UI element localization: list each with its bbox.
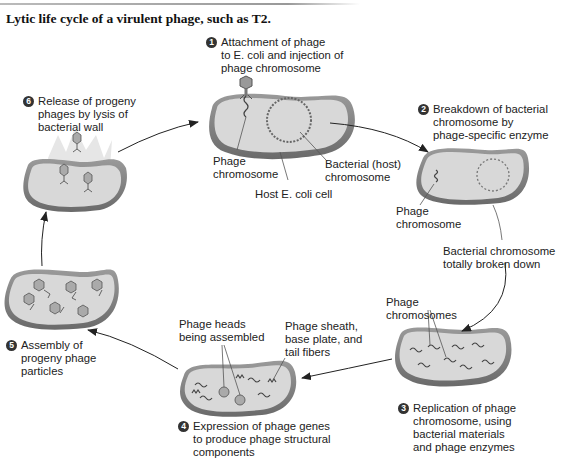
cell-step-4 <box>180 345 296 417</box>
phage-head-icon <box>235 395 245 405</box>
arrow-2-to-3 <box>462 263 506 331</box>
step-4-badge: 4 <box>178 421 189 432</box>
phage-head-icon <box>219 387 229 397</box>
label-host-cell: Host E. coli cell <box>255 188 332 201</box>
label-phage-heads: Phage heads being assembled <box>179 318 264 344</box>
step-1-caption: 1Attachment of phage to E. coli and inje… <box>206 36 343 75</box>
arrow-4-to-5 <box>88 330 178 369</box>
step-3-caption: 3Replication of phage chromosome, using … <box>398 402 516 454</box>
label-phage-chromosome-1: Phage chromosome <box>213 155 278 181</box>
step-2-badge: 2 <box>418 104 429 115</box>
label-phage-chromosomes-3: Phage chromosomes <box>386 296 457 322</box>
step-6-badge: 6 <box>23 96 34 107</box>
cell-step-5 <box>5 270 119 330</box>
step-6-caption: 6Release of progeny phages by lysis of b… <box>23 95 136 134</box>
label-bacterial-broken-down: Bacterial chromosome totally broken down <box>443 245 555 271</box>
label-bacterial-host-chromosome: Bacterial (host) chromosome <box>325 158 401 184</box>
step-3-badge: 3 <box>398 403 409 414</box>
label-phage-chromosome-2: Phage chromosome <box>396 205 461 231</box>
step-1-badge: 1 <box>206 37 217 48</box>
step-5-caption: 5Assembly of progeny phage particles <box>6 339 96 378</box>
step-2-caption: 2Breakdown of bacterial chromosome by ph… <box>418 103 549 142</box>
arrow-5-to-6 <box>42 212 47 266</box>
arrow-3-to-4 <box>302 359 392 378</box>
label-phage-sheath: Phage sheath, base plate, and tail fiber… <box>285 320 362 359</box>
step-5-badge: 5 <box>6 340 17 351</box>
step-4-caption: 4Expression of phage genes to produce ph… <box>178 420 331 459</box>
cell-step-6 <box>23 128 127 212</box>
